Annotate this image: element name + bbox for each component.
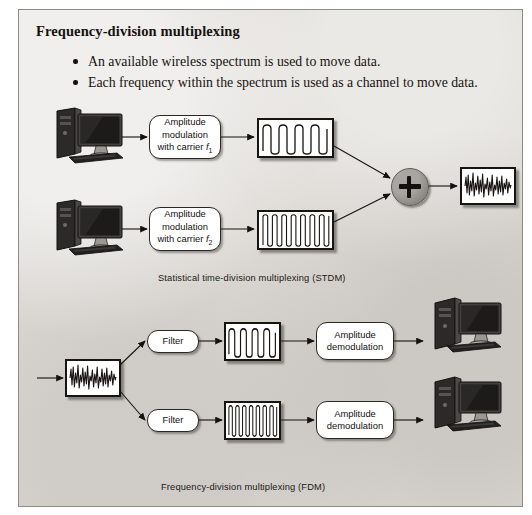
modulator-1-carrier-subscript: 1 (209, 147, 213, 154)
low-frequency-waveform-icon (226, 324, 279, 359)
fdm-caption: Frequency-division multiplexing (FDM) (161, 482, 325, 492)
demodulator-2-line1: Amplitude (334, 408, 376, 419)
composite-waveform-icon (67, 361, 119, 395)
filter-1-label: Filter (163, 335, 184, 348)
modulator-1-line2: modulation (162, 129, 208, 140)
filter-2-label: Filter (163, 414, 184, 427)
demodulator-1-line2: demodulation (327, 341, 383, 352)
modulator-2-line3: with carrier (158, 233, 206, 244)
incoming-signal-box (65, 359, 121, 397)
modulator-2-carrier-subscript: 2 (209, 239, 213, 246)
slide-page: Frequency-division multiplexing An avail… (18, 9, 523, 507)
modulator-1-line3: with carrier (158, 141, 206, 152)
modulator-2-box[interactable]: Amplitude modulation with carrier f2 (149, 207, 221, 251)
composite-waveform-icon (462, 169, 514, 203)
demodulator-2-box[interactable]: Amplitude demodulation (316, 401, 394, 439)
filter-1-box[interactable]: Filter (147, 330, 199, 353)
computer-icon (55, 199, 127, 261)
filtered-signal-box-1 (224, 322, 281, 361)
high-frequency-waveform-icon (226, 403, 279, 438)
signal-box-high-frequency-2 (257, 210, 334, 250)
high-frequency-waveform-icon (259, 212, 332, 248)
low-frequency-waveform-icon (259, 120, 332, 156)
computer-icon (425, 295, 503, 359)
diagram-stage: Amplitude modulation with carrier f1 Amp… (19, 10, 523, 507)
plus-icon-vertical (407, 176, 412, 198)
signal-box-low-frequency-1 (257, 118, 334, 158)
summing-junction (391, 168, 429, 206)
filtered-signal-box-2 (224, 401, 281, 440)
combined-signal-box (460, 167, 516, 205)
demodulator-1-box[interactable]: Amplitude demodulation (316, 322, 394, 360)
stdm-caption: Statistical time-division multiplexing (… (158, 273, 346, 283)
computer-icon (425, 374, 503, 438)
modulator-2-line1: Amplitude (164, 208, 206, 219)
demodulator-1-line1: Amplitude (334, 329, 376, 340)
computer-icon (55, 107, 127, 169)
modulator-1-box[interactable]: Amplitude modulation with carrier f1 (149, 115, 221, 159)
modulator-2-line2: modulation (162, 221, 208, 232)
demodulator-2-line2: demodulation (327, 420, 383, 431)
modulator-1-line1: Amplitude (164, 116, 206, 127)
filter-2-box[interactable]: Filter (147, 409, 199, 432)
